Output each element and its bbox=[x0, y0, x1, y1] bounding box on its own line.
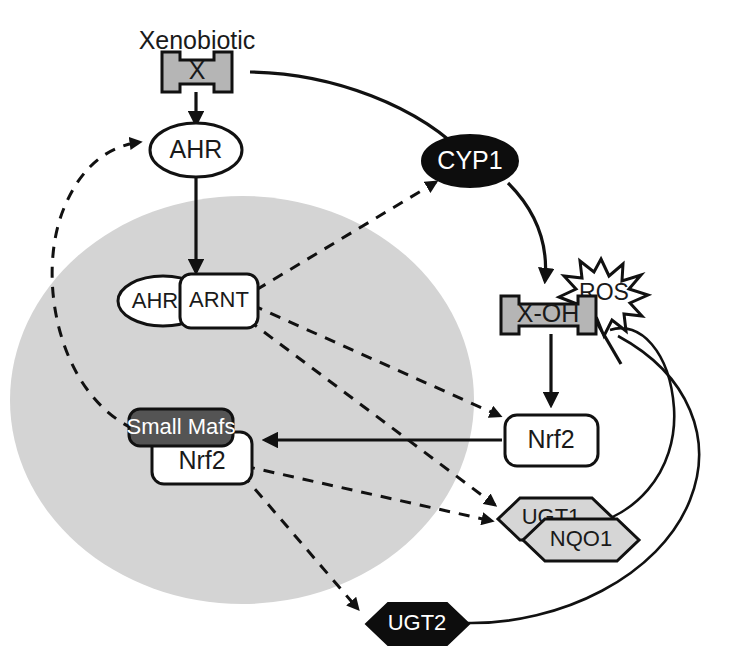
node-ugt2-label: UGT2 bbox=[388, 610, 447, 635]
node-small-mafs-label: Small Mafs bbox=[127, 414, 236, 439]
node-nqo1-label: NQO1 bbox=[550, 526, 612, 551]
node-nrf2-nuclear-label: Nrf2 bbox=[178, 446, 225, 474]
pathway-canvas: Xenobiotic X AHR AHR ARNT CYP1 ROS bbox=[0, 0, 740, 663]
node-x: X bbox=[162, 52, 232, 92]
node-ahr-cytoplasmic-label: AHR bbox=[170, 135, 223, 163]
nucleus bbox=[10, 196, 474, 604]
node-cyp1-label: CYP1 bbox=[437, 146, 502, 174]
xenobiotic-label: Xenobiotic bbox=[139, 26, 256, 54]
node-nrf2-cytoplasmic: Nrf2 bbox=[505, 415, 598, 466]
node-ahr-cytoplasmic: AHR bbox=[150, 123, 242, 177]
node-ugt1-nqo1-group: UGT1 NQO1 bbox=[498, 498, 639, 561]
node-x-label: X bbox=[189, 56, 206, 84]
node-x-oh: X-OH bbox=[501, 296, 596, 334]
node-nrf2-cytoplasmic-label: Nrf2 bbox=[527, 425, 574, 453]
node-ahr-arnt-dimer: AHR ARNT bbox=[118, 274, 258, 328]
edge-ugt2-curve bbox=[466, 336, 699, 623]
node-ahr-nuclear-label: AHR bbox=[132, 288, 178, 313]
node-arnt-label: ARNT bbox=[189, 287, 249, 312]
node-ugt2: UGT2 bbox=[366, 603, 469, 645]
node-x-oh-label: X-OH bbox=[517, 299, 580, 327]
edge-cyp1-to-x-oh bbox=[508, 183, 546, 281]
pathway-diagram: Xenobiotic X AHR AHR ARNT CYP1 ROS bbox=[0, 0, 740, 663]
node-cyp1: CYP1 bbox=[422, 135, 518, 187]
